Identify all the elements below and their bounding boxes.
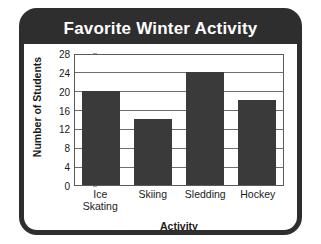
x-axis-labels: IceSkatingSkiingSleddingHockey bbox=[74, 188, 284, 212]
bar-skiing bbox=[134, 119, 172, 185]
x-tick-label: Sledding bbox=[179, 188, 231, 212]
page-title: Favorite Winter Activity bbox=[24, 13, 297, 44]
x-tick-label-line: Sledding bbox=[179, 188, 231, 200]
x-tick-label: Skiing bbox=[127, 188, 179, 212]
x-tick-label: Hockey bbox=[232, 188, 284, 212]
y-tick-label: 4 bbox=[46, 162, 70, 173]
y-tick-label: 16 bbox=[46, 105, 70, 116]
chart-body: Number of Students 0481216202428 IceSkat… bbox=[24, 44, 297, 230]
x-axis-title: Activity bbox=[74, 220, 284, 232]
bar-ice-skating bbox=[82, 91, 120, 185]
y-tick-label: 0 bbox=[46, 181, 70, 192]
y-tick-label: 8 bbox=[46, 143, 70, 154]
x-tick-label: IceSkating bbox=[74, 188, 126, 212]
y-tick-label: 28 bbox=[46, 49, 70, 60]
y-tick-label: 24 bbox=[46, 67, 70, 78]
y-tick-label: 20 bbox=[46, 86, 70, 97]
chart-card: Favorite Winter Activity Number of Stude… bbox=[19, 8, 302, 235]
x-tick-label-line: Hockey bbox=[232, 188, 284, 200]
bar-series bbox=[75, 55, 283, 185]
y-tick-label: 12 bbox=[46, 124, 70, 135]
x-tick-label-line: Skating bbox=[74, 200, 126, 212]
plot-wrapper: Number of Students 0481216202428 IceSkat… bbox=[24, 44, 297, 235]
y-axis-title: Number of Students bbox=[31, 47, 43, 167]
y-axis-ticks: 0481216202428 bbox=[46, 54, 70, 186]
bar-hockey bbox=[238, 100, 276, 185]
x-tick-label-line: Ice bbox=[74, 188, 126, 200]
plot-area bbox=[74, 54, 284, 186]
x-tick-label-line: Skiing bbox=[127, 188, 179, 200]
bar-sledding bbox=[186, 72, 224, 185]
